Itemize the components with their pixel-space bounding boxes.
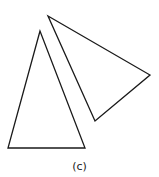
diagram-canvas	[0, 0, 159, 177]
triangle-right	[48, 16, 150, 121]
figure-caption: (c)	[0, 160, 159, 173]
triangle-left	[8, 31, 85, 148]
